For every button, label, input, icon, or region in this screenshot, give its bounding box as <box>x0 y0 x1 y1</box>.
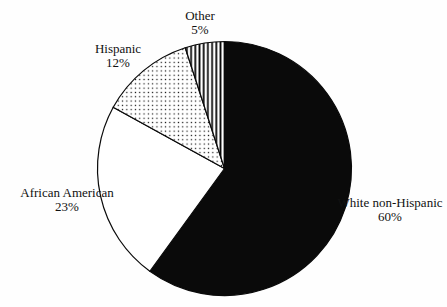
slice-label-other: Other 5% <box>185 9 215 36</box>
slice-label-hispanic-name: Hispanic <box>95 42 141 56</box>
pie-chart: Other 5% Hispanic 12% African American 2… <box>0 0 447 307</box>
slice-label-african-american: African American 23% <box>20 186 113 213</box>
slice-label-white-non-hispanic-pct: 60% <box>337 210 442 224</box>
slice-label-white-non-hispanic: White non-Hispanic 60% <box>337 196 442 223</box>
slice-label-other-name: Other <box>185 9 215 23</box>
slice-label-hispanic-pct: 12% <box>95 56 141 70</box>
slice-label-hispanic: Hispanic 12% <box>95 42 141 69</box>
slice-label-white-non-hispanic-name: White non-Hispanic <box>337 196 442 210</box>
slice-label-african-american-name: African American <box>20 186 113 200</box>
slice-label-african-american-pct: 23% <box>20 200 113 214</box>
pie-figure <box>0 0 447 307</box>
slice-label-other-pct: 5% <box>185 23 215 37</box>
